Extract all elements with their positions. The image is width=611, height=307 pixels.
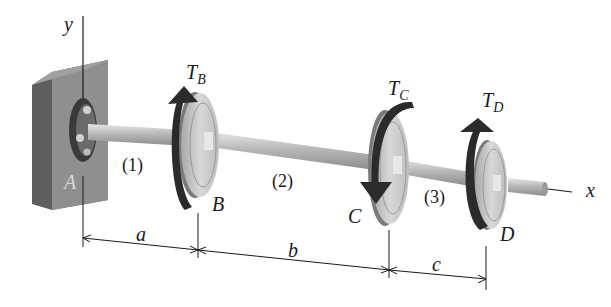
torque-label-b: TB	[186, 62, 206, 82]
y-axis-label: y	[64, 14, 73, 34]
gear-b	[178, 92, 219, 198]
x-axis-label: x	[586, 180, 595, 200]
dimension-label-a: a	[136, 224, 146, 244]
shaft-diagram	[0, 0, 611, 307]
point-label-b: B	[212, 194, 224, 214]
x-axis	[548, 189, 572, 192]
segment-label-2: (2)	[272, 172, 293, 190]
point-label-d: D	[500, 224, 514, 244]
torque-label-c: TC	[388, 78, 408, 98]
dimension-label-c: c	[432, 254, 441, 274]
support-label-a: A	[64, 172, 76, 192]
torque-label-d: TD	[482, 90, 503, 110]
point-label-c: C	[348, 206, 361, 226]
dimension-label-b: b	[288, 240, 298, 260]
segment-label-3: (3)	[424, 188, 445, 206]
segment-label-1: (1)	[122, 156, 143, 174]
